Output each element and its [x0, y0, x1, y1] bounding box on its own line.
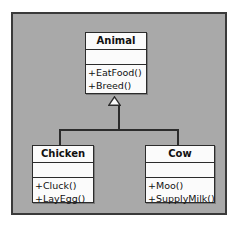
operation-item: +Moo() — [148, 179, 214, 192]
class-box-cow[interactable]: Cow +Moo() +SupplyMilk() — [145, 145, 215, 203]
class-box-chicken[interactable]: Chicken +Cluck() +LayEgg() — [32, 145, 94, 203]
diagram-canvas: Animal +EatFood() +Breed() Chicken +Cluc… — [11, 12, 227, 215]
operation-item: +SupplyMilk() — [148, 192, 214, 205]
class-box-animal[interactable]: Animal +EatFood() +Breed() — [85, 32, 147, 94]
operation-item: +Breed() — [88, 79, 146, 92]
class-attributes-cow — [146, 163, 214, 178]
class-name-animal: Animal — [86, 33, 146, 50]
generalization-branch-cow — [177, 129, 179, 146]
generalization-bus — [59, 129, 178, 131]
class-operations-animal: +EatFood() +Breed() — [86, 65, 146, 93]
generalization-stem — [118, 105, 120, 130]
class-name-chicken: Chicken — [33, 146, 93, 163]
operation-item: +LayEgg() — [35, 192, 93, 205]
class-attributes-chicken — [33, 163, 93, 178]
class-name-cow: Cow — [146, 146, 214, 163]
class-attributes-animal — [86, 50, 146, 65]
class-operations-chicken: +Cluck() +LayEgg() — [33, 178, 93, 206]
generalization-branch-chicken — [59, 129, 61, 146]
operation-item: +EatFood() — [88, 66, 146, 79]
uml-class-diagram: Animal +EatFood() +Breed() Chicken +Cluc… — [0, 0, 241, 229]
operation-item: +Cluck() — [35, 179, 93, 192]
class-operations-cow: +Moo() +SupplyMilk() — [146, 178, 214, 206]
